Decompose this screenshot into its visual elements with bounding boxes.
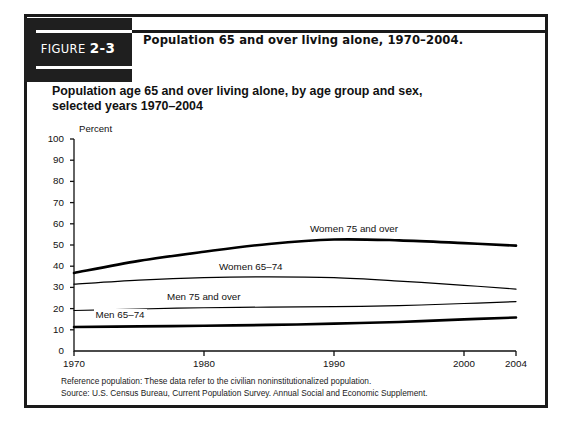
y-tick-label: 30 (42, 281, 64, 292)
y-tick-label: 60 (42, 218, 64, 229)
badge-rule-top (36, 30, 132, 33)
y-tick-label: 70 (42, 197, 64, 208)
x-tick-label: 1990 (314, 358, 354, 369)
figure-badge-text: FIGURE 2-3 (24, 40, 132, 56)
series-label-2: Men 75 and over (165, 291, 243, 302)
y-tick-label: 80 (42, 175, 64, 186)
y-tick-label: 10 (42, 324, 64, 335)
figure-badge-number: 2-3 (90, 40, 116, 56)
figure-badge: FIGURE 2-3 (24, 18, 132, 82)
y-tick-label: 40 (42, 260, 64, 271)
figure-root: FIGURE 2-3 Population 65 and over living… (0, 0, 572, 426)
footnote-source: Source: U.S. Census Bureau, Current Popu… (61, 388, 428, 400)
y-tick-label: 20 (42, 303, 64, 314)
x-tick-label: 1980 (184, 358, 224, 369)
series-label-1: Women 65–74 (217, 261, 285, 272)
y-axis-unit-label: Percent (79, 123, 112, 134)
footnote-reference: Reference population: These data refer t… (61, 376, 428, 388)
figure-title: Population 65 and over living alone, 197… (143, 33, 463, 47)
y-tick-label: 50 (42, 239, 64, 250)
series-label-0: Women 75 and over (308, 223, 400, 234)
y-tick-label: 100 (42, 133, 64, 144)
y-tick-label: 90 (42, 154, 64, 165)
x-tick-label: 1970 (54, 358, 94, 369)
x-tick-label: 2000 (444, 358, 484, 369)
badge-rule-bottom (36, 66, 132, 69)
chart-subtitle: Population age 65 and over living alone,… (52, 84, 472, 114)
figure-badge-word: FIGURE (41, 42, 86, 56)
x-tick-label: 2004 (496, 358, 536, 369)
series-label-3: Men 65–74 (94, 309, 147, 320)
y-tick-label: 0 (42, 345, 64, 356)
footnotes: Reference population: These data refer t… (61, 376, 428, 399)
